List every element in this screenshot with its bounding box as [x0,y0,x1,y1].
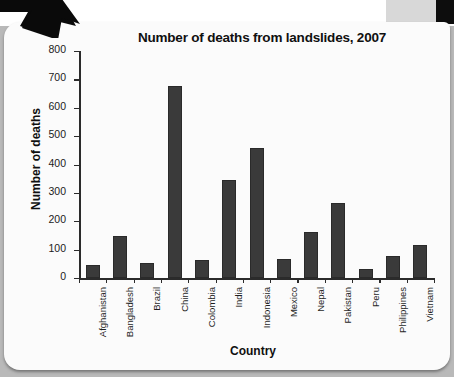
x-axis-tick [106,278,107,283]
x-axis-category-label: Brazil [151,287,162,311]
x-axis-tick [434,278,435,283]
x-axis-tick [379,278,380,283]
bar [386,256,400,278]
y-axis-tick: 800 [74,51,79,52]
y-axis-tick-label: 200 [48,213,66,225]
x-axis-tick [134,278,135,283]
y-axis-tick-label: 400 [48,157,66,169]
x-axis-category-label: Indonesia [261,287,272,328]
y-axis-tick-label: 700 [48,71,66,83]
x-axis-tick [79,278,80,283]
x-axis-tick [216,278,217,283]
page-root: Number of deaths from landslides, 2007 N… [0,0,454,377]
x-axis-category-label: Nepal [315,287,326,312]
x-axis-category-label: Colombia [206,287,217,327]
bar [222,180,236,278]
y-axis-tick: 700 [74,79,79,80]
y-axis-tick-label: 600 [48,100,66,112]
x-axis-category-label: China [179,287,190,312]
y-axis-tick: 600 [74,108,79,109]
bar [86,265,100,278]
chart-title: Number of deaths from landslides, 2007 [76,30,448,45]
x-axis-tick [270,278,271,283]
x-axis-category-label: Pakistan [342,287,353,323]
x-axis-tick [297,278,298,283]
x-axis-category-label: Mexico [288,287,299,317]
bar [168,86,182,278]
y-axis-tick-label: 0 [60,270,66,282]
bar [250,148,264,278]
bar [331,203,345,278]
x-axis-category-label: Vietnam [424,287,435,322]
x-axis-tick [407,278,408,283]
x-axis-category-label: Bangladesh [124,287,135,337]
y-axis-tick: 400 [74,165,79,166]
x-axis-category-label: India [233,287,244,308]
page-corner-marker [436,0,454,24]
bar [113,236,127,278]
bar [413,245,427,278]
x-axis-category-label: Peru [370,287,381,307]
bar [277,259,291,278]
bar [195,260,209,278]
bar [359,269,373,278]
x-axis-tick [161,278,162,283]
x-axis-line [79,278,434,280]
x-axis-tick [352,278,353,283]
x-axis-tick [188,278,189,283]
x-axis-category-label: Afghanistan [97,287,108,337]
y-axis-tick-label: 300 [48,185,66,197]
y-axis-tick: 200 [74,221,79,222]
y-axis-tick-label: 100 [48,242,66,254]
y-axis-tick: 100 [74,250,79,251]
x-axis-title: Country [78,344,428,358]
y-axis-tick: 500 [74,136,79,137]
bar [304,232,318,278]
x-axis-tick [243,278,244,283]
y-axis-tick: 300 [74,193,79,194]
y-axis-line [79,51,81,278]
y-axis-tick-label: 500 [48,128,66,140]
plot-area: 0100200300400500600700800AfghanistanBang… [79,51,434,278]
bar-chart: Number of deaths from landslides, 2007 N… [4,22,450,370]
bar [140,263,154,278]
x-axis-tick [325,278,326,283]
y-axis-title: Number of deaths [29,79,43,239]
x-axis-category-label: Philippines [397,287,408,333]
y-axis-tick-label: 800 [48,43,66,55]
